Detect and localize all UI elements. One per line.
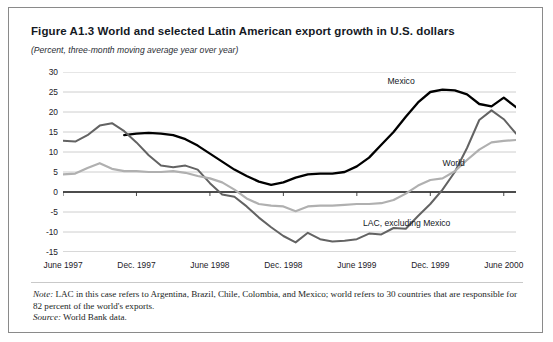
y-axis-tick-label: 25 (36, 87, 58, 97)
y-axis-tick-label: -5 (36, 207, 58, 217)
series-label-mexico: Mexico (387, 76, 414, 86)
x-axis-tick-label: June 1997 (28, 260, 98, 270)
y-axis-tick-label: 10 (36, 147, 58, 157)
figure-panel: Figure A1.3 World and selected Latin Ame… (8, 7, 543, 333)
source-label: Source: (33, 312, 61, 322)
y-axis-tick-label: -10 (36, 227, 58, 237)
y-axis-tick-label: 5 (36, 167, 58, 177)
figure-notes: Note: LAC in this case refers to Argenti… (33, 289, 525, 324)
note-label: Note: (33, 289, 53, 299)
source-text: World Bank data. (61, 312, 127, 322)
note-text: LAC in this case refers to Argentina, Br… (33, 289, 517, 311)
figure-subtitle: (Percent, three-month moving average yea… (31, 45, 238, 55)
x-axis-tick-label: June 1999 (322, 260, 392, 270)
series-label-world: World (443, 158, 465, 168)
x-axis-tick-label: June 2000 (469, 260, 539, 270)
y-axis-tick-label: 15 (36, 127, 58, 137)
x-axis-tick-label: Dec. 1998 (248, 260, 318, 270)
x-axis: June 1997Dec. 1997June 1998Dec. 1998June… (63, 260, 516, 274)
y-axis-tick-label: -15 (36, 247, 58, 257)
x-axis-tick-label: Dec. 1997 (101, 260, 171, 270)
y-axis-tick-label: 0 (36, 187, 58, 197)
series-label-lac-excluding-mexico: LAC, excluding Mexico (363, 218, 450, 228)
figure-title: Figure A1.3 World and selected Latin Ame… (31, 25, 455, 37)
y-axis-tick-label: 30 (36, 67, 58, 77)
x-axis-tick-label: June 1998 (175, 260, 245, 270)
footnote-divider (31, 282, 523, 283)
y-axis-tick-label: 20 (36, 107, 58, 117)
x-axis-tick-label: Dec. 1999 (395, 260, 465, 270)
